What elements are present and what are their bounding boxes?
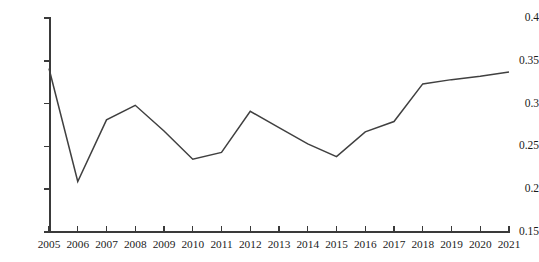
data-series-line — [49, 18, 509, 232]
plot-area — [49, 18, 509, 232]
line-chart: 0.150.20.250.30.350.4 200520062007200820… — [0, 0, 539, 262]
series-polyline — [49, 69, 509, 182]
x-axis-tick-label: 2021 — [492, 238, 526, 250]
